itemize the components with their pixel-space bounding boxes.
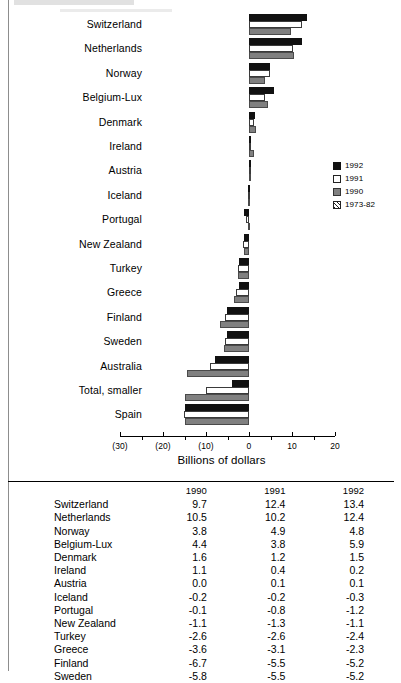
chart-category-label: New Zealand (14, 239, 142, 250)
bar-1992 (249, 87, 274, 94)
table-cell-1991: 3.8 (237, 538, 316, 551)
bar-1992 (248, 185, 250, 192)
bar-1990 (249, 174, 251, 181)
chart-category-label: Belgium-Lux (14, 92, 142, 103)
bar-chart: (30)(20)(10)01020 Billions of dollars 19… (0, 0, 401, 478)
table-cell-1990: -3.6 (158, 643, 237, 656)
bar-1990 (248, 199, 250, 206)
chart-category-label: Austria (14, 165, 142, 176)
x-axis-tick-label: 10 (275, 441, 309, 451)
table-cell-1990: -6.7 (158, 657, 237, 670)
x-axis-minor-tick (228, 437, 229, 440)
legend-item: 1991 (333, 173, 375, 184)
table-cell-country: New Zealand (8, 617, 158, 630)
bar-1991 (225, 314, 249, 321)
bar-1992 (249, 136, 251, 143)
legend-label: 1992 (345, 161, 363, 170)
table-cell-1992: -1.2 (315, 604, 394, 617)
bar-1990 (249, 28, 291, 35)
bar-1992 (232, 380, 249, 387)
table-cell-country: Denmark (8, 551, 158, 564)
bar-1990 (234, 296, 249, 303)
x-axis-tick-label: (30) (103, 441, 137, 451)
table-cell-1990: 4.4 (158, 538, 237, 551)
table-cell-1990: -1.1 (158, 617, 237, 630)
legend-item: 1990 (333, 186, 375, 197)
table-row: Turkey-2.6-2.6-2.4 (8, 630, 394, 643)
chart-category-label: Australia (14, 361, 142, 372)
bar-1991 (249, 45, 293, 52)
table-row: Netherlands10.510.212.4 (8, 511, 394, 524)
bar-1992 (249, 112, 255, 119)
bar-1992 (227, 331, 249, 338)
bar-1991 (236, 289, 249, 296)
legend-item: 1992 (333, 160, 375, 171)
x-axis-minor-tick (185, 437, 186, 440)
table-cell-country: Portugal (8, 604, 158, 617)
table-cell-1990: -0.2 (158, 591, 237, 604)
table-cell-country: Sweden (8, 670, 158, 683)
legend-swatch-1991 (333, 175, 341, 183)
bar-1991 (249, 143, 251, 150)
chart-category-label: Spain (14, 409, 142, 420)
table-cell-1991: -5.5 (237, 670, 316, 683)
table-cell-1992: 13.4 (315, 498, 394, 511)
bar-1990 (249, 126, 256, 133)
bar-1991 (248, 192, 250, 199)
table-cell-1992: -5.2 (315, 670, 394, 683)
bar-1990 (187, 370, 249, 377)
table-cell-1992: 5.9 (315, 538, 394, 551)
bar-1990 (249, 77, 265, 84)
table-cell-country: Ireland (8, 564, 158, 577)
table-cell-1992: 4.8 (315, 525, 394, 538)
table-cell-1992: 0.2 (315, 564, 394, 577)
legend-swatch-1973-82 (333, 201, 341, 209)
chart-category-label: Netherlands (14, 43, 142, 54)
bar-1990 (244, 248, 249, 255)
table-row: Ireland1.10.40.2 (8, 564, 394, 577)
chart-category-label: Portugal (14, 214, 142, 225)
table-cell-country: Norway (8, 525, 158, 538)
table-cell-1991: 10.2 (237, 511, 316, 524)
table-cell-country: Finland (8, 657, 158, 670)
x-axis-tick (249, 432, 250, 436)
legend-label: 1990 (345, 187, 363, 196)
bar-1991 (184, 411, 249, 418)
bar-1990 (185, 418, 250, 425)
table-cell-1992: 1.5 (315, 551, 394, 564)
chart-category-label: Switzerland (14, 19, 142, 30)
bar-1990 (238, 272, 249, 279)
x-axis-tick (292, 432, 293, 436)
table-cell-1990: -0.1 (158, 604, 237, 617)
table-header-country (8, 484, 158, 498)
bar-1990 (220, 321, 249, 328)
chart-category-label: Ireland (14, 141, 142, 152)
bar-1992 (239, 282, 249, 289)
table-cell-1990: -2.6 (158, 630, 237, 643)
table-header-1990: 1990 (158, 484, 237, 498)
bar-1991 (238, 265, 249, 272)
chart-category-label: Turkey (14, 263, 142, 274)
bar-1991 (210, 363, 249, 370)
chart-category-label: Sweden (14, 336, 142, 347)
bar-1990 (249, 150, 254, 157)
table-cell-country: Belgium-Lux (8, 538, 158, 551)
table-row: Sweden-5.8-5.5-5.2 (8, 670, 394, 683)
legend-swatch-1990 (333, 188, 341, 196)
chart-category-label: Greece (14, 287, 142, 298)
table-row: Austria0.00.10.1 (8, 577, 394, 590)
table-cell-1991: -5.5 (237, 657, 316, 670)
table-cell-1991: -2.6 (237, 630, 316, 643)
bar-1991 (249, 167, 251, 174)
bar-1990 (248, 223, 250, 230)
table-cell-1992: 0.1 (315, 577, 394, 590)
bar-1992 (215, 356, 249, 363)
x-axis-tick-label: 0 (232, 441, 266, 451)
table-cell-country: Netherlands (8, 511, 158, 524)
table-cell-1990: 0.0 (158, 577, 237, 590)
chart-legend: 1992199119901973-82 (333, 160, 375, 212)
table-row: Iceland-0.2-0.2-0.3 (8, 591, 394, 604)
data-table: 1990 1991 1992 Switzerland9.712.413.4Net… (8, 484, 394, 683)
table-row: New Zealand-1.1-1.3-1.1 (8, 617, 394, 630)
legend-label: 1991 (345, 174, 363, 183)
